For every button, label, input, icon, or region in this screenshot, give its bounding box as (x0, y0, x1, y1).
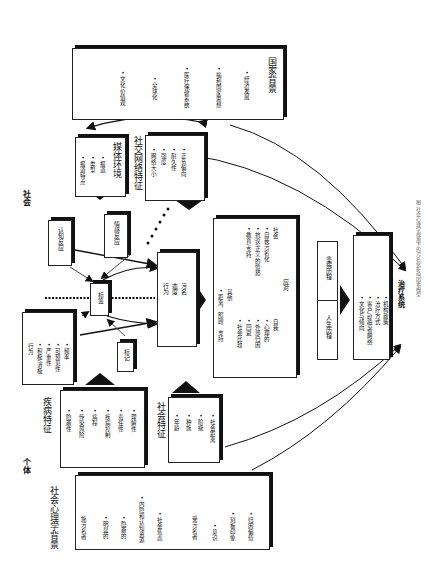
psych-item: • 社会焦虑 (156, 512, 164, 541)
media-item: • 报道 (99, 156, 107, 173)
behavior-box: 行为 • 积极/消极 • 严重性 • 可预见性 • 频率 (22, 312, 74, 385)
mark-text: 标记 (122, 349, 131, 361)
life-history-box: 人生历程 (317, 300, 338, 360)
emotional-response-box: 情感反应 (104, 214, 128, 258)
national-item: • 文化价值观 (119, 71, 127, 106)
coping-item: • 教育/支持 (245, 227, 253, 258)
coping-item: • 心理的 (263, 319, 271, 342)
disease-item: • 传染风险 (78, 409, 86, 438)
coping-title: 应对 (281, 279, 290, 291)
psych-item: • 归因偏倚 (247, 512, 255, 541)
cognitive-response-box: 认知反应 (48, 220, 72, 266)
stigma-box: 污名 态度 行为 (157, 252, 197, 347)
social-network-item: • 强度 (160, 148, 168, 165)
behavior-item: • 积极/消极 (36, 343, 44, 374)
social-network-item: • 正负偏向 (180, 148, 188, 177)
media-title: 媒体环境 (111, 142, 122, 178)
psych-item: • 明显的 (102, 516, 110, 539)
social-network-box: 社交网络特征 • 网络大小 • 强度 • 耐久性 • 正负偏向 (145, 135, 205, 201)
treatment-item: • 文化与倾向 (358, 296, 366, 331)
social-network-item: • 耐久性 (170, 148, 178, 171)
disease-title: 疾病特征 (41, 397, 52, 433)
disease-features-box: 疾病特征 • 隐蔽性 • 传染风险 • 病程 • 疾病控制 • 责任性 • 理解… (60, 390, 145, 468)
social-features-item: • 年龄 (173, 414, 181, 431)
psych-item: • 内隐和认知资源 (138, 496, 146, 543)
coping-other-title: 其他 (226, 289, 234, 301)
psych-item: • 隐蔽的 (120, 516, 128, 539)
media-item: • 报道特点 (79, 156, 87, 185)
social-network-item: • 网络大小 (150, 148, 158, 177)
behavior-item: • 可预见性 (54, 343, 62, 372)
life-history-label: 人生历程 (324, 315, 333, 339)
national-item: • 经济发展 (243, 71, 251, 100)
psych-background-box: 社会心理学背景 施污名者 • 明显的 • 隐蔽的 • 内隐和认知资源 • 社会焦… (75, 475, 270, 550)
stigma-line: 行为 (161, 283, 170, 295)
coping-item: • 外部归因 (254, 319, 262, 348)
coping-item: • 回避 (245, 319, 253, 336)
coping-item: • 抗议/正义的愤怒 (254, 227, 262, 276)
figure-caption: 图 社会心理学视角下的污名化影响因素模型 (414, 200, 422, 297)
coping-social-title: 社会 (272, 227, 280, 239)
disease-item: • 理解性 (130, 409, 138, 432)
national-item: • 全球化 (151, 77, 159, 100)
national-title: 国家背景 (266, 57, 277, 93)
disease-item: • 责任性 (117, 409, 125, 432)
behavior-item: • 频率 (63, 343, 71, 360)
stigma-line: 污名 (179, 283, 188, 295)
treatment-item: • 客户/提供者网络 (366, 296, 374, 345)
coping-self-title: 自我 (272, 319, 280, 331)
behavior-item: • 严重性 (45, 343, 53, 366)
dotted-arrows (147, 208, 170, 245)
social-features-item: • 种族 (185, 414, 193, 431)
national-item: • 医疗保健系统 (183, 67, 191, 108)
social-features-box: 社会特征 • 年龄 • 种族 • 阶级 • 社会距离 (168, 397, 220, 463)
mark-box: 标记 (117, 342, 134, 372)
disease-item: • 疾病控制 (104, 409, 112, 438)
treatment-title: 治疗系统 (396, 280, 406, 308)
national-item: • 福利国家思想 (215, 67, 223, 108)
illness-history-box: 患病历程 (317, 241, 338, 301)
behavior-title: 行为 (27, 343, 35, 355)
emotional-label: 情感反应 (112, 221, 121, 245)
national-background-box: 国家背景 • 经济发展 • 福利国家思想 • 医疗保健系统 • 全球化 • 文化… (72, 48, 284, 120)
psych-title: 社会心理学背景 (48, 486, 59, 549)
coping-box: 应对 社会 • 自我污名化 • 抗议/正义的愤怒 • 教育/支持 自我 • 心理… (213, 218, 297, 378)
social-features-item: • 社会距离 (209, 414, 217, 443)
social-features-title: 社会特征 (155, 402, 166, 438)
treatment-system-box: • 文化与倾向 • 客户/提供者网络 • 治疗方式 • 机构政策 (353, 235, 390, 360)
section-label-society: 社会 (20, 190, 31, 206)
cognitive-label: 认知反应 (56, 227, 65, 251)
coping-item: • 自我污名化 (263, 227, 271, 262)
treatment-item: • 机构政策 (382, 296, 390, 325)
illness-history-label: 患病历程 (324, 256, 333, 280)
treatment-item: • 治疗方式 (374, 296, 382, 325)
social-features-item: • 阶级 (197, 414, 205, 431)
psych-item: • 意识 (211, 524, 219, 541)
coping-item: • 社会比较 (236, 319, 244, 348)
psych-stigmatized-title: 受污名者 (191, 516, 199, 540)
disease-item: • 病程 (91, 409, 99, 426)
media-item: • 类型 (89, 156, 97, 173)
coping-item: • 距离、照顾、支持 (217, 289, 225, 342)
disease-item: • 隐蔽性 (65, 409, 73, 432)
media-environment-box: 媒体环境 • 报道 • 类型 • 报道特点 (75, 137, 126, 197)
social-network-title: 社交网络特征 (132, 136, 143, 190)
stigma-line: 态度 (170, 283, 179, 295)
label-text: 标签 (96, 292, 105, 304)
label-box: 标签 (90, 283, 109, 316)
psych-item: • 刻板印象 (229, 512, 237, 541)
section-label-individual: 个体 (20, 458, 31, 474)
psych-stigmatizer-title: 施污名者 (80, 516, 88, 540)
